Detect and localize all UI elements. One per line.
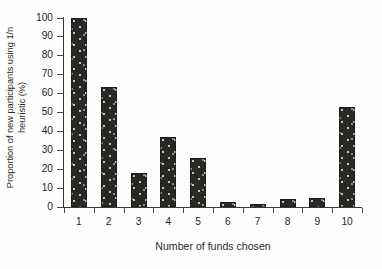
- y-axis-tick-label: 70: [13, 69, 53, 79]
- bar-4: [160, 137, 176, 207]
- y-axis-tick: [57, 188, 63, 189]
- bar-2: [101, 87, 117, 207]
- bar-6: [220, 202, 236, 207]
- y-axis-tick: [57, 169, 63, 170]
- x-axis-tick-label: 1: [64, 216, 94, 228]
- y-axis-tick-label: 10: [13, 183, 53, 193]
- x-axis-tick: [94, 208, 95, 213]
- x-axis-tick: [302, 208, 303, 213]
- y-axis-tick-label: 40: [13, 126, 53, 136]
- x-axis-tick-label: 3: [124, 216, 154, 228]
- x-axis-tick-label: 9: [302, 216, 332, 228]
- x-axis-tick: [183, 208, 184, 213]
- y-axis-tick: [57, 74, 63, 75]
- x-axis-tick-label: 10: [332, 216, 362, 228]
- y-axis-tick-label: 20: [13, 164, 53, 174]
- x-axis-title: Number of funds chosen: [64, 240, 362, 252]
- x-axis-tick: [362, 208, 363, 213]
- x-axis-tick-label: 5: [183, 216, 213, 228]
- y-axis-tick-label: 30: [13, 145, 53, 155]
- bar-1: [71, 18, 87, 207]
- x-axis-tick: [243, 208, 244, 213]
- bar-7: [250, 204, 266, 207]
- y-axis-tick: [57, 18, 63, 19]
- y-axis-tick-label: 80: [13, 50, 53, 60]
- x-axis-tick: [213, 208, 214, 213]
- x-axis-tick-label: 8: [273, 216, 303, 228]
- x-axis-tick: [153, 208, 154, 213]
- x-axis-tick-label: 7: [243, 216, 273, 228]
- bar-9: [309, 198, 325, 207]
- x-axis-tick: [273, 208, 274, 213]
- bar-5: [190, 158, 206, 207]
- plot-area: [64, 14, 362, 207]
- y-axis-tick-label: 90: [13, 31, 53, 41]
- bar-chart: Proportion of new participants using 1/n…: [0, 0, 382, 269]
- x-axis-tick: [64, 208, 65, 213]
- y-axis-tick: [57, 207, 63, 208]
- x-axis-tick-label: 2: [94, 216, 124, 228]
- bar-10: [339, 107, 355, 207]
- bar-8: [280, 199, 296, 207]
- y-axis-tick: [57, 112, 63, 113]
- x-axis-tick-label: 6: [213, 216, 243, 228]
- bar-3: [131, 173, 147, 207]
- y-axis-tick-label: 0: [13, 202, 53, 212]
- y-axis-tick-label: 100: [13, 13, 53, 23]
- y-axis-tick-label: 50: [13, 107, 53, 117]
- y-axis-tick: [57, 150, 63, 151]
- x-axis-tick-label: 4: [153, 216, 183, 228]
- y-axis-tick: [57, 131, 63, 132]
- x-axis-tick: [332, 208, 333, 213]
- y-axis-tick: [57, 36, 63, 37]
- y-axis-tick: [57, 55, 63, 56]
- y-axis-tick-label: 60: [13, 88, 53, 98]
- y-axis-tick: [57, 93, 63, 94]
- x-axis-tick: [124, 208, 125, 213]
